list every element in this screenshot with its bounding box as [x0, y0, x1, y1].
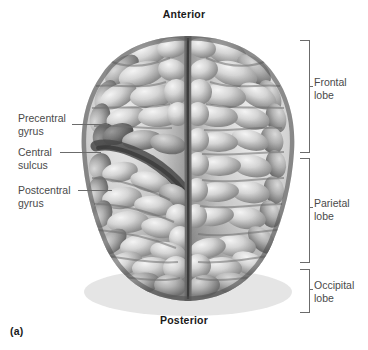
right-hemisphere-gyri [185, 33, 289, 299]
posterior-label: Posterior [0, 314, 368, 327]
figure-canvas: Anterior Posterior (a) Precentral gyrus … [0, 0, 368, 350]
label-central-sulcus: Central sulcus [18, 146, 52, 171]
brain-superior-view-illustration [0, 0, 368, 350]
label-precentral-gyrus: Precentral gyrus [18, 112, 66, 137]
label-central-sulcus-line2: sulcus [18, 159, 52, 172]
label-frontal-lobe-line1: Frontal [314, 76, 347, 89]
label-frontal-lobe: Frontal lobe [314, 76, 347, 101]
label-parietal-lobe: Parietal lobe [314, 197, 350, 222]
bracket-occipital-lobe [300, 269, 309, 312]
panel-letter: (a) [10, 325, 23, 338]
bracket-parietal-lobe [300, 158, 309, 262]
bracket-frontal-lobe [300, 40, 309, 152]
label-occipital-lobe-line1: Occipital [314, 279, 354, 292]
label-parietal-lobe-line1: Parietal [314, 197, 350, 210]
label-central-sulcus-line1: Central [18, 146, 52, 159]
label-parietal-lobe-line2: lobe [314, 210, 350, 223]
lobe-brackets [300, 40, 313, 312]
longitudinal-fissure [188, 36, 189, 301]
label-precentral-gyrus-line2: gyrus [18, 125, 66, 138]
label-occipital-lobe-line2: lobe [314, 292, 354, 305]
anterior-label: Anterior [0, 8, 368, 21]
label-postcentral-gyrus-line1: Postcentral [18, 184, 71, 197]
label-postcentral-gyrus-line2: gyrus [18, 197, 71, 210]
label-precentral-gyrus-line1: Precentral [18, 112, 66, 125]
label-frontal-lobe-line2: lobe [314, 89, 347, 102]
label-postcentral-gyrus: Postcentral gyrus [18, 184, 71, 209]
label-occipital-lobe: Occipital lobe [314, 279, 354, 304]
